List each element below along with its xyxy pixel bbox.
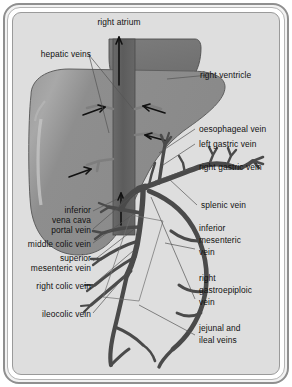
- label-right-atrium: right atrium: [75, 17, 163, 27]
- label-left-gastric-vein: left gastric vein: [199, 139, 257, 149]
- label-jejunal-ileal-veins-line1: jejunal and: [199, 323, 241, 333]
- label-oesophageal-vein: oesophageal vein: [199, 124, 266, 134]
- label-superior-mesenteric-vein-line2: mesenteric vein: [13, 263, 91, 273]
- label-inferior-mesenteric-vein-line2: mesenteric: [199, 235, 241, 245]
- label-middle-colic-vein: middle colic vein: [13, 239, 91, 249]
- label-superior-mesenteric-vein-line1: superior: [13, 253, 91, 263]
- label-inferior-mesenteric-vein-line3: vein: [199, 247, 215, 257]
- label-inferior-vena-cava-line2: vena cava: [13, 215, 91, 225]
- label-portal-vein: portal vein: [13, 225, 91, 235]
- label-right-gastroepiploic-vein-line3: vein: [199, 297, 215, 307]
- diagram-plate: right atrium right ventricle hepatic vei…: [12, 12, 280, 375]
- label-inferior-vena-cava-line1: inferior: [13, 205, 91, 215]
- label-splenic-vein: splenic vein: [201, 200, 246, 210]
- anatomy-illustration: [13, 13, 280, 375]
- diagram-frame: right atrium right ventricle hepatic vei…: [0, 0, 292, 387]
- label-hepatic-veins: hepatic veins: [13, 49, 91, 59]
- label-right-colic-vein: right colic vein: [13, 281, 91, 291]
- label-right-gastroepiploic-vein-line2: gastroepiploic: [199, 285, 252, 295]
- label-jejunal-ileal-veins-line2: ileal veins: [199, 335, 237, 345]
- label-right-gastroepiploic-vein-line1: right: [199, 273, 216, 283]
- label-ileocolic-vein: ileocolic vein: [13, 309, 91, 319]
- label-right-ventricle: right ventricle: [200, 70, 251, 80]
- label-inferior-mesenteric-vein-line1: inferior: [199, 223, 225, 233]
- label-right-gastric-vein: right gastric vein: [199, 162, 262, 172]
